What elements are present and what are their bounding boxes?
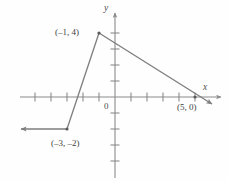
x-axis-label: x [203,83,207,93]
x-axis [20,93,221,102]
coordinate-plane [0,0,228,181]
point-marker-x-intercept [193,95,196,98]
point-marker-vertex-bottom [65,127,68,130]
falling-ray [99,33,212,104]
point-label-vertex-bottom: (–3, –2) [51,139,80,148]
y-axis [111,13,120,178]
point-label-vertex-top: (–1, 4) [55,28,79,37]
point-marker-vertex-top [97,31,100,34]
point-label-x-intercept: (5, 0) [177,103,197,112]
rising-segment [67,33,99,129]
y-axis-label: y [104,4,108,14]
origin-label: 0 [104,102,109,111]
graph-figure: y x 0 (–1, 4) (–3, –2) (5, 0) [0,0,228,181]
